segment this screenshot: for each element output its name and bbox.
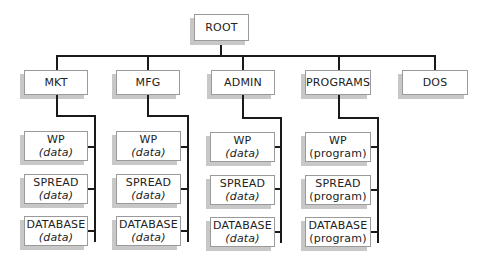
file-mfg-wp: WP (data) [116,131,181,161]
node-root: ROOT [194,14,249,41]
admin-branch-elbow [242,117,282,119]
level1-bus [56,55,436,57]
mfg-stub-wp [180,146,189,148]
file-mkt-database: DATABASE (data) [24,216,88,246]
node-mfg: MFG [116,70,180,95]
file-admin-wp: WP (data) [210,132,275,162]
programs-branch-drop [338,95,340,117]
admin-stub-wp [274,146,282,148]
node-label: DOS [423,76,448,89]
node-label: MKT [44,76,67,89]
programs-branch-elbow [338,117,379,119]
mkt-branch-drop [56,95,58,117]
node-root-label: ROOT [205,21,237,34]
node-programs: PROGRAMS [305,70,371,95]
programs-drop [338,55,340,70]
file-programs-database: DATABASE (program) [305,217,371,247]
mfg-branch-drop [147,95,149,117]
file-kind: (program) [309,232,366,245]
file-name: WP [47,133,65,146]
mkt-stub-database [87,230,96,232]
file-kind: (data) [39,231,74,244]
file-kind: (data) [39,189,74,202]
file-name: WP [140,133,158,146]
mfg-stub-database [180,230,189,232]
file-name: SPREAD [126,176,171,189]
programs-branch-bus [377,117,379,243]
node-admin: ADMIN [211,70,275,95]
file-name: WP [329,134,347,147]
file-name: DATABASE [213,219,272,232]
dos-drop [434,55,436,70]
file-mkt-spread: SPREAD (data) [24,174,88,204]
file-name: DATABASE [309,219,368,232]
admin-branch-drop [242,95,244,117]
file-admin-database: DATABASE (data) [210,217,275,247]
file-name: SPREAD [33,176,78,189]
file-kind: (program) [309,147,366,160]
node-label: ADMIN [224,76,262,89]
file-mfg-spread: SPREAD (data) [116,174,181,204]
admin-stub-database [274,231,282,233]
file-name: WP [234,134,252,147]
file-mkt-wp: WP (data) [24,131,88,161]
file-name: DATABASE [119,218,178,231]
node-dos: DOS [402,70,468,95]
file-kind: (data) [131,146,166,159]
mkt-drop [56,55,58,70]
file-kind: (program) [309,190,366,203]
file-programs-spread: SPREAD (program) [305,175,371,205]
file-kind: (data) [225,147,260,160]
mkt-branch-elbow [56,115,96,117]
programs-stub-spread [370,189,379,191]
admin-drop [242,55,244,70]
file-kind: (data) [39,146,74,159]
admin-stub-spread [274,188,282,190]
mfg-branch-bus [187,115,189,242]
file-name: SPREAD [315,177,360,190]
node-mkt: MKT [24,70,88,95]
mfg-branch-elbow [147,115,189,117]
mfg-stub-spread [180,188,189,190]
mkt-branch-bus [94,115,96,242]
file-kind: (data) [131,231,166,244]
programs-stub-database [370,231,379,233]
file-programs-wp: WP (program) [305,132,371,162]
mkt-stub-wp [87,146,96,148]
mfg-drop [147,55,149,70]
admin-branch-bus [280,117,282,243]
programs-stub-wp [370,146,379,148]
file-kind: (data) [225,232,260,245]
node-label: MFG [136,76,161,89]
file-kind: (data) [131,189,166,202]
file-name: SPREAD [220,177,265,190]
mkt-stub-spread [87,188,96,190]
node-label: PROGRAMS [306,76,370,89]
file-kind: (data) [225,190,260,203]
file-name: DATABASE [27,218,86,231]
file-mfg-database: DATABASE (data) [116,216,181,246]
file-admin-spread: SPREAD (data) [210,175,275,205]
